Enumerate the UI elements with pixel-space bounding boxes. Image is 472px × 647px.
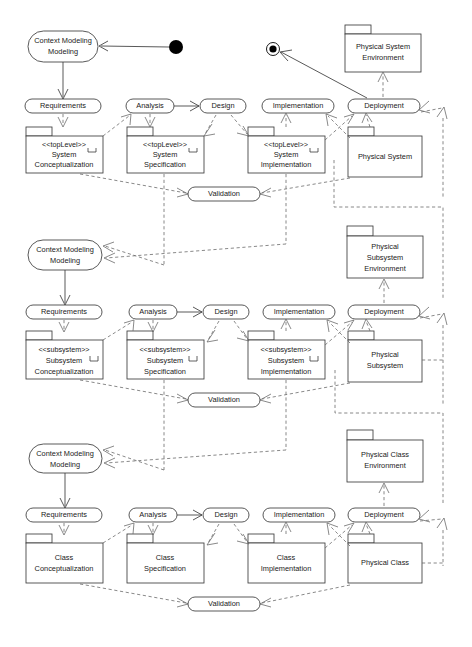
package-physical-subsystem-environment[interactable]: Physical Subsystem Environment xyxy=(347,226,423,278)
package-subsystem-implementation[interactable]: <<subsystem>> Subsystem Implementation xyxy=(248,331,325,379)
package-title: Class xyxy=(55,553,74,562)
activity-label: Design xyxy=(214,307,237,316)
package-system-implementation[interactable]: <<topLevel>> System Implementation xyxy=(248,127,325,173)
package-stereotype: <<topLevel>> xyxy=(264,140,308,149)
package-physical-class[interactable]: Physical Class xyxy=(348,534,422,583)
package-title: Physical System xyxy=(358,152,412,161)
arrowhead xyxy=(260,598,271,607)
activity-label: Deployment xyxy=(364,510,403,519)
package-title: Subsystem xyxy=(147,356,184,365)
edge-design-to-implpackage xyxy=(234,321,247,339)
package-title: Physical xyxy=(371,350,399,359)
activity-label: Requirements xyxy=(40,101,86,110)
package-subtitle: Specification xyxy=(144,160,186,169)
package-class-specification[interactable]: Class Specification xyxy=(127,534,204,583)
activity-label: Analysis xyxy=(139,307,167,316)
activity-label: Analysis xyxy=(139,510,167,519)
package-subtitle: Conceptualization xyxy=(35,160,94,169)
package-physical-system[interactable]: Physical System xyxy=(348,127,422,177)
arrowhead xyxy=(237,331,249,341)
package-title: System xyxy=(153,150,178,159)
activity-label: Design xyxy=(211,101,234,110)
package-title: Physical Class xyxy=(361,450,409,459)
edge-physicalsystem-to-validation xyxy=(262,178,350,193)
activity-label: Deployment xyxy=(364,101,403,110)
package-stereotype: <<subsystem>> xyxy=(38,345,89,354)
package-system-conceptualization[interactable]: <<topLevel>> System Conceptualization xyxy=(26,127,103,173)
package-class-conceptualization[interactable]: Class Conceptualization xyxy=(26,534,103,583)
final-state-inner xyxy=(269,45,276,52)
package-physical-subsystem[interactable]: Physical Subsystem xyxy=(348,331,422,382)
package-line3: Environment xyxy=(364,264,406,273)
edge-design-to-specification xyxy=(208,321,219,340)
activity-label: Context Modeling xyxy=(36,449,94,458)
package-subtitle: Conceptualization xyxy=(35,564,94,573)
package-physical-class-environment[interactable]: Physical Class Environment xyxy=(347,430,423,482)
arrowhead xyxy=(362,113,372,123)
arrowhead xyxy=(124,523,134,534)
edge-physicalclass-to-validation xyxy=(262,585,350,603)
package-subsystem-conceptualization[interactable]: <<subsystem>> Subsystem Conceptualizatio… xyxy=(26,331,103,379)
arrowhead xyxy=(437,518,447,530)
activity-label: Implementation xyxy=(273,101,324,110)
package-subtitle: Specification xyxy=(144,564,186,573)
package-subsystem-specification[interactable]: <<subsystem>> Subsystem Specification xyxy=(127,331,204,379)
package-subtitle: Subsystem xyxy=(367,253,404,262)
edge-design-to-specification xyxy=(205,115,216,134)
package-system-specification[interactable]: <<topLevel>> System Specification xyxy=(127,127,204,173)
package-title: Subsystem xyxy=(268,356,305,365)
package-title: Subsystem xyxy=(46,356,83,365)
package-subtitle: Specification xyxy=(144,367,186,376)
arrowhead xyxy=(260,188,271,197)
package-subtitle: Implementation xyxy=(261,160,312,169)
edge-initial-to-context xyxy=(101,46,169,47)
activity-label: Implementation xyxy=(274,307,325,316)
package-subtitle: Environment xyxy=(362,53,404,62)
edge-physicalsubsystem-to-validation xyxy=(262,383,350,399)
package-subtitle: Conceptualization xyxy=(35,367,94,376)
edge-design-to-implpackage xyxy=(234,524,247,542)
package-stereotype: <<topLevel>> xyxy=(42,140,86,149)
arrowhead xyxy=(177,394,188,403)
initial-state-node xyxy=(169,40,183,54)
package-title: Physical Class xyxy=(361,558,409,567)
package-class-implementation[interactable]: Class Implementation xyxy=(248,534,325,583)
edge-conceptualization-to-validation xyxy=(80,380,186,399)
package-physical-system-environment[interactable]: Physical System Environment xyxy=(345,25,421,72)
edge-design-to-specification xyxy=(208,524,219,543)
activity-label: Validation xyxy=(208,395,240,404)
edge-from-impl-to-context xyxy=(106,244,286,258)
edge-from-spec-to-context xyxy=(105,450,164,470)
activity-label-2: Modeling xyxy=(48,47,78,56)
activity-label: Context Modeling xyxy=(36,245,94,254)
edge-design-to-implpackage xyxy=(231,115,247,134)
package-title: Physical System xyxy=(356,42,410,51)
arrowhead xyxy=(260,394,271,403)
edge-from-impl-to-context xyxy=(106,450,286,463)
edge-physical-to-deployment xyxy=(366,115,370,127)
arrowhead xyxy=(419,101,430,113)
level-class: Context Modeling Modeling Requirements A… xyxy=(26,430,447,611)
package-title: Class xyxy=(156,553,175,562)
activity-label-2: Modeling xyxy=(50,460,80,469)
activity-label: Requirements xyxy=(41,510,87,519)
activity-label-2: Modeling xyxy=(50,256,80,265)
arrowhead xyxy=(177,598,188,607)
edge-conceptualization-to-validation xyxy=(80,174,186,193)
process-diagram-canvas: Context Modeling Modeling Requirements A… xyxy=(0,0,472,647)
package-subtitle: Implementation xyxy=(261,367,312,376)
arrowhead xyxy=(121,114,131,125)
activity-label: Implementation xyxy=(274,510,325,519)
edge-conceptualization-to-validation xyxy=(80,584,186,603)
arrowhead xyxy=(419,307,430,319)
arrowhead xyxy=(177,188,188,197)
package-subtitle: Subsystem xyxy=(367,361,404,370)
activity-label: Validation xyxy=(208,189,240,198)
edge-conceptualization-to-analysis xyxy=(103,116,129,136)
package-stereotype: <<subsystem>> xyxy=(260,345,311,354)
package-stereotype: <<topLevel>> xyxy=(143,140,187,149)
package-title: System xyxy=(52,150,77,159)
activity-label: Design xyxy=(214,510,237,519)
activity-label: Context Modeling xyxy=(34,36,92,45)
activity-label: Validation xyxy=(208,599,240,608)
